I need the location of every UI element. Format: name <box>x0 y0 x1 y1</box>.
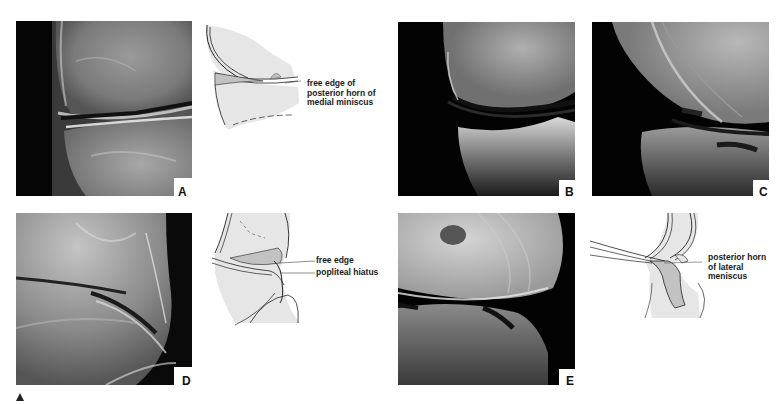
panel-label-d: D <box>182 375 191 387</box>
knee-diagram-a <box>203 25 303 135</box>
callout-line: medial miniscus <box>307 98 375 108</box>
callout-line: meniscus <box>708 272 766 282</box>
radiograph-panel-c <box>592 22 769 196</box>
panel-label-b: B <box>565 186 574 198</box>
radiograph-image-c <box>592 22 769 196</box>
callout-popliteal-hiatus: popliteal hiatus <box>316 268 378 278</box>
callout-leader-line <box>664 260 702 266</box>
panel-label-c: C <box>759 186 768 198</box>
radiograph-image-a <box>16 21 192 196</box>
radiograph-panel-e <box>398 213 575 385</box>
radiograph-image-b <box>398 22 575 196</box>
callout-free-edge: free edge <box>316 256 354 266</box>
radiograph-panel-d <box>16 213 192 385</box>
callout-lateral-meniscus: posterior horn of lateral meniscus <box>708 253 766 282</box>
diagram-medial-meniscus <box>203 25 303 135</box>
panel-label-a: A <box>178 186 187 198</box>
callout-leader-lines <box>280 258 316 278</box>
radiograph-panel-b <box>398 22 575 196</box>
radiograph-panel-a <box>16 21 192 196</box>
triangle-up-icon <box>16 393 24 401</box>
panel-label-e: E <box>566 375 574 387</box>
radiograph-image-d <box>16 213 192 385</box>
callout-medial-meniscus: free edge of posterior horn of medial mi… <box>307 79 375 108</box>
radiograph-image-e <box>398 213 575 385</box>
